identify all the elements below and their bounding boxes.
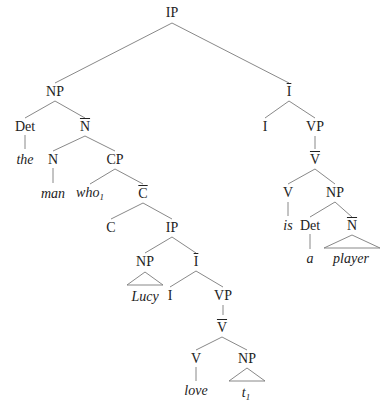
node-i-emb: I xyxy=(168,289,173,303)
node-word-who: who1 xyxy=(76,186,104,202)
branch-line xyxy=(288,169,315,184)
node-cp: CP xyxy=(106,153,123,167)
node-nbar-2: N xyxy=(347,219,357,233)
node-cbar: C xyxy=(138,187,147,201)
node-vbar-main: V xyxy=(310,153,320,167)
node-v-emb: V xyxy=(191,352,201,366)
node-vbar-emb: V xyxy=(217,321,227,335)
node-v-main: V xyxy=(283,186,293,200)
branch-line xyxy=(222,337,247,350)
triangle-abbreviation xyxy=(229,368,265,381)
node-ip-root: IP xyxy=(166,6,178,20)
branch-line xyxy=(55,23,172,83)
node-word-is: is xyxy=(283,219,292,233)
node-vp-emb: VP xyxy=(214,289,232,303)
branch-line xyxy=(289,101,315,118)
node-word-love: love xyxy=(184,384,207,398)
node-word-the: the xyxy=(16,153,33,167)
branch-line xyxy=(315,169,335,184)
branch-line xyxy=(335,202,352,217)
triangle-abbreviation xyxy=(324,235,380,248)
branch-line xyxy=(145,237,172,253)
node-det-1: Det xyxy=(15,120,35,134)
branch-line xyxy=(196,271,223,287)
node-ibar-main: I xyxy=(287,85,292,99)
node-n-1: N xyxy=(48,153,58,167)
node-word-trace: t1 xyxy=(242,386,250,402)
branch-line xyxy=(85,136,115,151)
node-vp-main: VP xyxy=(306,120,324,134)
branch-line xyxy=(196,337,222,350)
node-word-player: player xyxy=(333,252,369,266)
tree-branches xyxy=(0,0,387,408)
branch-line xyxy=(310,202,335,217)
node-word-lucy: Lucy xyxy=(131,290,158,304)
node-np-pred: NP xyxy=(326,186,344,200)
branch-line xyxy=(55,101,85,118)
node-ibar-emb: I xyxy=(194,255,199,269)
branch-line xyxy=(90,169,115,184)
node-np-trace: NP xyxy=(238,352,256,366)
node-word-man: man xyxy=(41,187,65,201)
triangle-abbreviation xyxy=(127,272,163,285)
node-ip-emb: IP xyxy=(166,221,178,235)
branch-line xyxy=(53,136,85,151)
node-np-lucy: NP xyxy=(136,255,154,269)
node-word-a: a xyxy=(307,252,314,266)
branch-line xyxy=(25,101,55,118)
node-nbar-1: N xyxy=(80,120,90,134)
branch-line xyxy=(115,169,143,184)
branch-line xyxy=(172,23,289,83)
node-np-subj: NP xyxy=(46,85,64,99)
branch-line xyxy=(172,237,196,253)
node-i-main: I xyxy=(263,120,268,134)
node-det-2: Det xyxy=(300,219,320,233)
branch-line xyxy=(265,101,289,118)
node-c: C xyxy=(106,221,115,235)
branch-line xyxy=(111,203,143,219)
branch-line xyxy=(143,203,172,219)
branch-line xyxy=(170,271,196,287)
